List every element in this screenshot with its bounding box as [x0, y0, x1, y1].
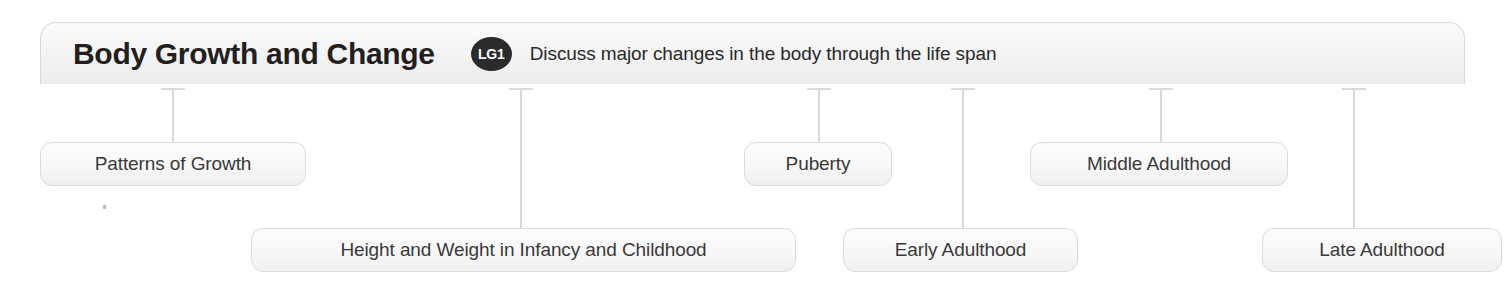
topic-node-middle-adulthood[interactable]: Middle Adulthood	[1030, 142, 1288, 186]
scan-artifact-speck	[103, 205, 106, 209]
topic-node-late-adulthood[interactable]: Late Adulthood	[1262, 228, 1502, 272]
topic-node-patterns-of-growth[interactable]: Patterns of Growth	[40, 142, 306, 186]
topic-node-early-adulthood[interactable]: Early Adulthood	[843, 228, 1078, 272]
header-content: Body Growth and Change LG1 Discuss major…	[41, 23, 1464, 84]
topic-node-height-and-weight[interactable]: Height and Weight in Infancy and Childho…	[251, 228, 796, 272]
learning-goal-badge: LG1	[471, 37, 512, 71]
topic-node-label: Height and Weight in Infancy and Childho…	[340, 239, 706, 261]
topic-node-label: Puberty	[786, 153, 851, 175]
topic-node-label: Early Adulthood	[895, 239, 1027, 261]
topic-node-puberty[interactable]: Puberty	[744, 142, 892, 186]
topic-node-label: Patterns of Growth	[95, 153, 252, 175]
learning-goal-description: Discuss major changes in the body throug…	[530, 43, 997, 65]
connector-stem	[520, 88, 522, 228]
connector-stem	[962, 88, 964, 228]
connector-stem	[1353, 88, 1355, 228]
connector-stem	[818, 88, 820, 142]
learning-goal-diagram: Body Growth and Change LG1 Discuss major…	[0, 0, 1505, 294]
learning-goal-header-bar: Body Growth and Change LG1 Discuss major…	[40, 22, 1465, 84]
connector-stem	[1160, 88, 1162, 142]
topic-node-label: Late Adulthood	[1319, 239, 1444, 261]
page-title: Body Growth and Change	[73, 37, 435, 71]
connector-stem	[172, 88, 174, 142]
topic-node-label: Middle Adulthood	[1087, 153, 1231, 175]
